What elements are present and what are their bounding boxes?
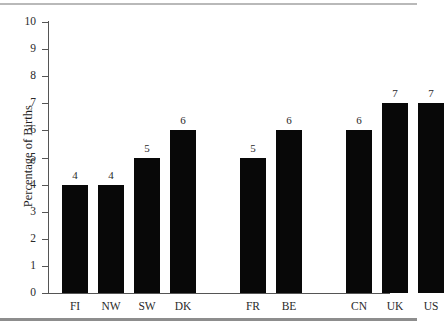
x-axis-line — [48, 293, 390, 294]
y-axis-tick — [42, 76, 49, 77]
y-axis-tick-label: 5 — [14, 152, 36, 164]
bar — [134, 158, 160, 294]
y-axis-tick — [42, 185, 49, 186]
bar-value-label: 5 — [233, 143, 273, 154]
bar-value-label: 4 — [91, 170, 131, 181]
y-axis-tick-label: 3 — [14, 206, 36, 218]
x-axis-tick-label: BE — [267, 301, 311, 313]
y-axis-tick-label: 10 — [14, 16, 36, 28]
bar — [170, 130, 196, 293]
y-axis-tick — [42, 266, 49, 267]
y-axis-tick — [42, 212, 49, 213]
y-axis-tick-label: 0 — [14, 287, 36, 299]
bar-value-label: 7 — [411, 88, 448, 99]
y-axis-tick — [42, 158, 49, 159]
bar-value-label: 4 — [55, 170, 95, 181]
bar-value-label: 6 — [163, 115, 203, 126]
y-axis-tick-label: 8 — [14, 70, 36, 82]
bar-value-label: 5 — [127, 143, 167, 154]
bar-value-label: 7 — [375, 88, 415, 99]
bar — [98, 185, 124, 293]
bar — [62, 185, 88, 293]
y-axis-tick — [42, 130, 49, 131]
y-axis-tick-label: 2 — [14, 233, 36, 245]
y-axis-tick-label: 7 — [14, 97, 36, 109]
bar — [346, 130, 372, 293]
x-axis-tick-label: DK — [161, 301, 205, 313]
y-axis-tick — [42, 239, 49, 240]
y-axis-tick — [42, 103, 49, 104]
y-axis-tick — [42, 22, 49, 23]
y-axis-tick-label: 9 — [14, 43, 36, 55]
bar — [418, 103, 444, 293]
y-axis-tick — [42, 49, 49, 50]
y-axis-tick-label: 1 — [14, 260, 36, 272]
x-axis-tick-label: US — [409, 301, 448, 313]
bar — [240, 158, 266, 294]
bar-value-label: 6 — [269, 115, 309, 126]
y-axis-tick-label: 4 — [14, 179, 36, 191]
bar — [382, 103, 408, 293]
y-axis-tick-label: 6 — [14, 124, 36, 136]
bar — [276, 130, 302, 293]
bar-value-label: 6 — [339, 115, 379, 126]
y-axis-tick — [42, 293, 49, 294]
